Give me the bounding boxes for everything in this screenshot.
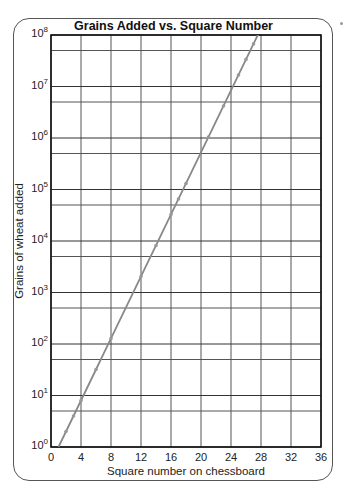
- y-tick-label: 108: [18, 25, 48, 39]
- x-tick-label: 32: [281, 451, 301, 463]
- y-tick-label: 104: [18, 231, 48, 245]
- y-tick-label: 105: [18, 180, 48, 194]
- data-point-marker: [169, 213, 173, 217]
- data-point-marker: [139, 275, 143, 279]
- x-tick-label: 24: [221, 451, 241, 463]
- x-tick-label: 16: [161, 451, 181, 463]
- data-point-marker: [177, 197, 181, 201]
- y-tick-label: 107: [18, 77, 48, 91]
- x-tick-label: 4: [71, 451, 91, 463]
- data-point-marker: [64, 430, 68, 434]
- data-point-marker: [154, 244, 158, 248]
- data-point-marker: [222, 104, 226, 108]
- data-point-marker: [72, 414, 76, 418]
- data-point-marker: [79, 399, 83, 403]
- data-point-marker: [184, 182, 188, 186]
- y-tick-label: 102: [18, 334, 48, 348]
- data-point-marker: [207, 135, 211, 139]
- x-tick-label: 20: [191, 451, 211, 463]
- data-point-marker: [94, 368, 98, 372]
- x-tick-label: 8: [101, 451, 121, 463]
- x-tick-label: 0: [41, 451, 61, 463]
- y-tick-label: 101: [18, 386, 48, 400]
- y-tick-label: 106: [18, 128, 48, 142]
- data-point-marker: [244, 58, 248, 62]
- data-point-marker: [252, 42, 256, 46]
- y-tick-label: 103: [18, 283, 48, 297]
- plot-area: [0, 0, 347, 498]
- x-tick-label: 12: [131, 451, 151, 463]
- data-point-marker: [109, 337, 113, 341]
- data-point-marker: [237, 73, 241, 77]
- y-tick-label: 100: [18, 437, 48, 451]
- x-tick-label: 36: [311, 451, 331, 463]
- x-tick-label: 28: [251, 451, 271, 463]
